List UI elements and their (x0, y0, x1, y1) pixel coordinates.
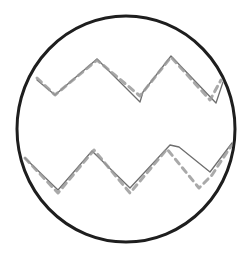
sketch-canvas (0, 0, 249, 254)
outer-circle (17, 16, 235, 242)
bottom-wave-solid-line (25, 143, 232, 190)
sketch-svg (0, 0, 249, 254)
top-wave-solid-line (37, 56, 223, 103)
